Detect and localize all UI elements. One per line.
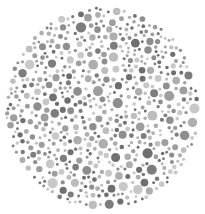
plate-dot xyxy=(63,86,67,90)
plate-dot xyxy=(129,133,134,138)
plate-dot xyxy=(189,97,192,100)
plate-dot xyxy=(171,63,176,68)
plate-dot xyxy=(160,35,163,38)
plate-dot xyxy=(130,26,133,29)
plate-dot xyxy=(188,118,197,127)
plate-dot xyxy=(63,65,67,69)
plate-dot xyxy=(60,187,67,194)
plate-dot xyxy=(179,71,183,75)
plate-dot xyxy=(7,122,14,129)
plate-dot xyxy=(62,125,68,131)
plate-dot xyxy=(159,94,163,98)
plate-dot xyxy=(120,94,123,97)
plate-dot xyxy=(136,136,139,139)
plate-dot xyxy=(157,32,160,35)
plate-dot xyxy=(34,88,41,95)
plate-dot xyxy=(147,165,157,175)
plate-dot xyxy=(85,48,88,51)
plate-dot xyxy=(66,80,71,85)
plate-dot xyxy=(111,77,115,81)
plate-dot xyxy=(160,28,163,31)
plate-dot xyxy=(174,87,178,91)
plate-dot xyxy=(138,48,141,51)
plate-dot xyxy=(167,104,171,108)
plate-dot xyxy=(83,102,87,106)
plate-dot xyxy=(35,71,38,74)
plate-dot xyxy=(143,116,147,120)
plate-dot xyxy=(59,169,65,175)
plate-dot xyxy=(109,32,117,40)
plate-dot xyxy=(44,78,47,81)
plate-dot xyxy=(155,39,160,44)
plate-dot xyxy=(154,154,159,159)
plate-dot xyxy=(172,165,177,170)
plate-dot xyxy=(22,53,25,56)
plate-dot xyxy=(97,194,101,198)
plate-dot xyxy=(170,52,175,57)
plate-dot xyxy=(19,114,22,117)
plate-dot xyxy=(123,57,126,60)
plate-dot xyxy=(64,97,70,103)
plate-dot xyxy=(132,20,135,23)
plate-dot xyxy=(55,69,59,73)
plate-dot xyxy=(102,83,105,86)
plate-dot xyxy=(118,123,122,127)
plate-dot xyxy=(159,129,162,132)
plate-dot xyxy=(124,153,131,160)
plate-dot xyxy=(119,27,122,30)
plate-dot xyxy=(36,64,39,67)
plate-dot xyxy=(130,190,133,193)
plate-dot xyxy=(9,87,13,91)
plate-dot xyxy=(37,41,40,44)
plate-dot xyxy=(43,180,46,183)
plate-dot xyxy=(166,117,174,125)
plate-dot xyxy=(78,52,84,58)
plate-dot xyxy=(87,32,90,35)
plate-dot xyxy=(140,55,144,59)
plate-dot xyxy=(40,55,45,60)
plate-dot xyxy=(68,191,74,197)
plate-dot xyxy=(121,49,124,52)
plate-dot xyxy=(102,110,107,115)
plate-dot xyxy=(163,83,170,90)
plate-dot xyxy=(177,102,181,106)
plate-dot xyxy=(155,141,161,147)
plate-dot xyxy=(132,102,136,106)
plate-dot xyxy=(66,90,69,93)
plate-dot xyxy=(30,152,36,158)
plate-dot xyxy=(134,82,138,86)
plate-dot xyxy=(60,117,63,120)
plate-dot xyxy=(39,31,44,36)
plate-dot xyxy=(48,151,51,154)
plate-dot xyxy=(174,46,178,50)
plate-dot xyxy=(146,187,153,194)
plate-dot xyxy=(171,70,176,75)
plate-dot xyxy=(182,121,185,124)
plate-dot xyxy=(46,27,49,30)
plate-dot xyxy=(173,126,177,130)
plate-dot xyxy=(100,20,103,23)
plate-dot xyxy=(134,57,139,62)
plate-dot xyxy=(100,45,103,48)
plate-dot xyxy=(79,200,82,203)
plate-dot xyxy=(30,134,35,139)
plate-dot xyxy=(89,181,92,184)
plate-dot xyxy=(35,142,38,145)
plate-dot xyxy=(93,163,98,168)
plate-dot xyxy=(42,185,45,188)
plate-dot xyxy=(46,82,53,89)
plate-dot xyxy=(19,157,25,163)
plate-dot xyxy=(124,114,128,118)
plate-dot xyxy=(89,136,94,141)
plate-dot xyxy=(92,97,95,100)
plate-dot xyxy=(194,97,199,102)
plate-dot xyxy=(136,167,142,173)
plate-dot xyxy=(18,69,26,77)
plate-dot xyxy=(78,11,84,17)
plate-dot xyxy=(142,173,146,177)
plate-dot xyxy=(152,147,155,150)
plate-dot xyxy=(166,73,169,76)
plate-dot xyxy=(33,102,41,110)
plate-dot xyxy=(162,157,165,160)
plate-dot xyxy=(190,136,194,140)
